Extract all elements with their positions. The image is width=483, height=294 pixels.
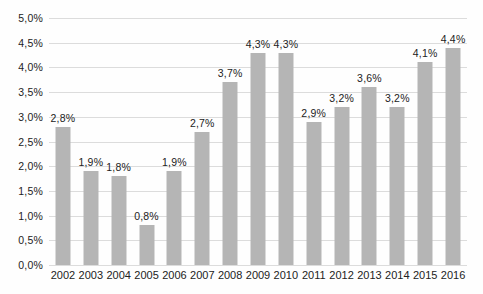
bar-2011 [306, 122, 321, 265]
y-tick-label: 4,0% [18, 61, 43, 73]
gridline [49, 265, 467, 266]
bar-2004 [111, 176, 126, 265]
y-tick-label: 1,0% [18, 210, 43, 222]
plot-area: 2,8%1,9%1,8%0,8%1,9%2,7%3,7%4,3%4,3%2,9%… [49, 18, 467, 265]
gridline [49, 18, 467, 19]
y-tick-label: 1,5% [18, 185, 43, 197]
bar-value-label: 2,9% [301, 107, 326, 119]
bar-value-label: 3,2% [329, 92, 354, 104]
x-tick-label: 2013 [357, 269, 381, 281]
y-tick-label: 3,0% [18, 111, 43, 123]
bar-value-label: 1,8% [106, 161, 131, 173]
bar-value-label: 3,6% [357, 72, 382, 84]
x-tick-label: 2011 [302, 269, 326, 281]
x-tick-label: 2012 [329, 269, 353, 281]
bar-2005 [139, 225, 154, 265]
bar-2002 [55, 127, 70, 265]
x-tick-label: 2010 [274, 269, 298, 281]
bar-value-label: 2,8% [51, 112, 76, 124]
x-tick-label: 2015 [413, 269, 437, 281]
bar-value-label: 1,9% [162, 156, 187, 168]
bar-2014 [390, 107, 405, 265]
y-tick-label: 0,0% [18, 259, 43, 271]
x-tick-label: 2002 [51, 269, 75, 281]
bar-2003 [83, 171, 98, 265]
bar-2012 [334, 107, 349, 265]
x-tick-label: 2014 [385, 269, 409, 281]
bar-2006 [167, 171, 182, 265]
bar-value-label: 3,2% [385, 92, 410, 104]
bar-2010 [278, 53, 293, 265]
bar-2013 [362, 87, 377, 265]
x-tick-label: 2007 [190, 269, 214, 281]
y-tick-label: 4,5% [18, 37, 43, 49]
y-axis: 0,0%0,5%1,0%1,5%2,0%2,5%3,0%3,5%4,0%4,5%… [0, 18, 43, 265]
bar-2015 [418, 62, 433, 265]
bar-2007 [195, 132, 210, 265]
y-tick-label: 0,5% [18, 234, 43, 246]
bar-value-label: 2,7% [190, 117, 215, 129]
y-tick-label: 2,0% [18, 160, 43, 172]
y-tick-label: 3,5% [18, 86, 43, 98]
x-tick-label: 2009 [246, 269, 270, 281]
x-tick-label: 2004 [106, 269, 130, 281]
x-tick-label: 2016 [441, 269, 465, 281]
bar-value-label: 1,9% [78, 156, 103, 168]
bar-value-label: 4,3% [246, 38, 271, 50]
y-tick-label: 2,5% [18, 136, 43, 148]
bar-value-label: 4,3% [273, 38, 298, 50]
bar-2009 [251, 53, 266, 265]
bar-value-label: 4,4% [441, 33, 466, 45]
x-tick-label: 2006 [162, 269, 186, 281]
bar-2008 [223, 82, 238, 265]
bar-value-label: 4,1% [413, 47, 438, 59]
x-tick-label: 2005 [134, 269, 158, 281]
x-tick-label: 2003 [79, 269, 103, 281]
x-tick-label: 2008 [218, 269, 242, 281]
bar-value-label: 3,7% [218, 67, 243, 79]
y-tick-label: 5,0% [18, 12, 43, 24]
bar-value-label: 0,8% [134, 210, 159, 222]
bar-chart: 0,0%0,5%1,0%1,5%2,0%2,5%3,0%3,5%4,0%4,5%… [0, 0, 483, 294]
bar-2016 [446, 48, 461, 265]
